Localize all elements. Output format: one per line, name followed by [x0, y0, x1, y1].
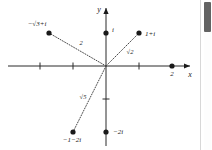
- point-minus-two-i: [103, 129, 108, 134]
- figure-viewer: −√3+i i 1+i 2 −1−2i −2i 2 √2 √5 x y: [0, 0, 212, 150]
- point-i: [103, 30, 108, 35]
- vertical-scrollbar[interactable]: [200, 0, 212, 150]
- label-modulus-sqrt5: √5: [80, 93, 88, 100]
- x-axis: [8, 63, 190, 68]
- point-minus-one-minus-two-i: [70, 129, 75, 134]
- label-minus-two-i: −2i: [113, 128, 123, 136]
- point-one-plus-i: [136, 30, 141, 35]
- label-modulus-2: 2: [79, 39, 83, 46]
- modulus-line-2: [49, 33, 106, 66]
- argand-diagram-canvas: −√3+i i 1+i 2 −1−2i −2i 2 √2 √5 x y: [0, 0, 200, 150]
- modulus-line-sqrt5: [73, 66, 106, 132]
- label-minus-sqrt3-plus-i: −√3+i: [28, 20, 47, 28]
- point-minus-sqrt3-plus-i: [46, 30, 51, 35]
- label-one-plus-i: 1+i: [145, 30, 155, 38]
- label-i: i: [112, 26, 114, 34]
- scrollbar-thumb[interactable]: [204, 2, 211, 32]
- modulus-line-sqrt2: [106, 33, 139, 66]
- x-axis-label: x: [187, 70, 192, 79]
- y-axis: [103, 8, 108, 146]
- argand-diagram-figure: −√3+i i 1+i 2 −1−2i −2i 2 √2 √5 x y: [0, 0, 200, 150]
- y-axis-label: y: [96, 5, 101, 14]
- label-minus-one-minus-two-i: −1−2i: [63, 136, 81, 144]
- point-two: [169, 63, 174, 68]
- label-two: 2: [170, 70, 174, 78]
- label-modulus-sqrt2: √2: [127, 48, 135, 55]
